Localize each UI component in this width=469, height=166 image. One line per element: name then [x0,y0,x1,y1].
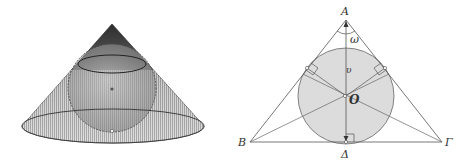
cone-figure [20,24,210,150]
label-Δ: Δ [340,148,349,161]
label-upsilon: υ [346,65,352,75]
tangent-point-left [305,66,308,69]
tangent-point-right [383,66,386,69]
cross-section-figure: A B Γ Δ O ω υ [237,5,453,161]
base-contact-point [110,129,113,132]
label-O: O [349,93,360,107]
point-Δ [344,140,347,143]
center-point-O [343,94,346,97]
label-Γ: Γ [444,136,453,149]
label-B: B [237,136,246,149]
label-omega: ω [350,33,359,46]
sphere-center-point [110,87,113,90]
figure-canvas: A B Γ Δ O ω υ [0,0,469,166]
label-A: A [340,5,349,18]
